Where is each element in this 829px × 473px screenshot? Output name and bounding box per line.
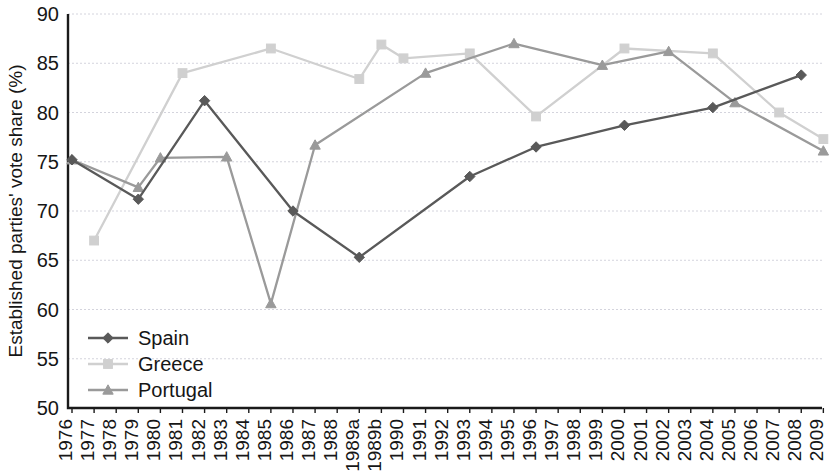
- x-tick-label: 1995: [497, 419, 518, 461]
- series-portugal: [67, 38, 829, 307]
- legend-label-portugal: Portugal: [138, 379, 213, 401]
- legend-label-greece: Greece: [138, 353, 204, 375]
- data-point-marker: [619, 120, 629, 130]
- x-tick-label: 1996: [519, 419, 540, 461]
- legend-label-spain: Spain: [138, 327, 189, 349]
- x-tick-label: 1983: [210, 419, 231, 461]
- data-point-marker: [266, 44, 275, 53]
- y-tick-label: 75: [37, 151, 59, 173]
- data-point-marker: [103, 333, 113, 343]
- data-point-marker: [620, 44, 629, 53]
- x-tick-label: 1991: [409, 419, 430, 461]
- data-point-marker: [531, 142, 541, 152]
- data-point-marker: [819, 135, 828, 144]
- data-point-marker: [775, 108, 784, 117]
- data-point-marker: [266, 298, 276, 307]
- data-point-marker: [310, 140, 320, 149]
- y-tick-label: 80: [37, 102, 59, 124]
- data-series-group: [67, 38, 829, 307]
- data-point-marker: [818, 146, 828, 155]
- x-tick-label: 2007: [762, 419, 783, 461]
- x-tick-label: 1994: [475, 419, 496, 462]
- y-tick-label: 55: [37, 348, 59, 370]
- x-tick-label: 1978: [99, 419, 120, 461]
- y-tick-label: 60: [37, 299, 59, 321]
- x-tick-label: 1998: [563, 419, 584, 461]
- line-chart: 505560657075808590 197619771978197919801…: [0, 0, 829, 473]
- data-point-marker: [104, 360, 113, 369]
- x-tick-label: 2009: [806, 419, 827, 461]
- x-tick-label: 2002: [652, 419, 673, 461]
- x-tick-label: 1976: [55, 419, 76, 461]
- y-tick-label: 70: [37, 200, 59, 222]
- x-tick-label: 1999: [585, 419, 606, 461]
- x-tick-label: 2000: [607, 419, 628, 461]
- y-tick-label: 90: [37, 3, 59, 25]
- x-tick-label: 1990: [386, 419, 407, 461]
- data-point-marker: [90, 236, 99, 245]
- series-greece: [90, 40, 828, 245]
- x-tick-label: 1987: [298, 419, 319, 461]
- x-tick-label: 2001: [630, 419, 651, 461]
- x-tick-label: 1988: [320, 419, 341, 461]
- x-tick-label: 1981: [165, 419, 186, 461]
- y-axis-title-text: Established parties' vote share (%): [5, 65, 26, 358]
- data-point-marker: [532, 112, 541, 121]
- x-tick-label: 1993: [453, 419, 474, 461]
- y-axis-title: Established parties' vote share (%): [5, 65, 26, 358]
- data-point-marker: [796, 70, 806, 80]
- x-tick-label: 1986: [276, 419, 297, 461]
- data-point-marker: [399, 54, 408, 63]
- x-tick-label: 1980: [143, 419, 164, 461]
- y-axis-tick-labels: 505560657075808590: [37, 3, 59, 419]
- data-point-marker: [708, 49, 717, 58]
- x-tick-label: 1979: [121, 419, 142, 461]
- series-line-spain: [72, 75, 801, 257]
- x-tick-label: 2004: [696, 419, 717, 462]
- x-tick-label: 1982: [188, 419, 209, 461]
- data-point-marker: [509, 38, 519, 47]
- x-tick-label: 1977: [77, 419, 98, 461]
- series-spain: [67, 70, 807, 263]
- y-tick-label: 85: [37, 52, 59, 74]
- x-tick-label: 2006: [740, 419, 761, 461]
- x-tick-label: 1989a: [342, 419, 363, 472]
- data-point-marker: [708, 102, 718, 112]
- chart-container: 505560657075808590 197619771978197919801…: [0, 0, 829, 473]
- series-line-portugal: [72, 44, 823, 304]
- x-tick-label: 2008: [784, 419, 805, 461]
- data-point-marker: [377, 40, 386, 49]
- x-tick-label: 1984: [232, 419, 253, 462]
- y-tick-label: 65: [37, 249, 59, 271]
- x-tick-label: 1989b: [364, 419, 385, 472]
- x-tick-label: 2005: [718, 419, 739, 461]
- x-tick-label: 1992: [431, 419, 452, 461]
- y-tick-label: 50: [37, 397, 59, 419]
- chart-legend: SpainGreecePortugal: [88, 327, 213, 401]
- x-axis-tick-labels: 1976197719781979198019811982198319841985…: [55, 408, 827, 472]
- x-tick-label: 1985: [254, 419, 275, 461]
- x-tick-label: 1997: [541, 419, 562, 461]
- data-point-marker: [355, 75, 364, 84]
- data-point-marker: [178, 69, 187, 78]
- x-tick-label: 2003: [674, 419, 695, 461]
